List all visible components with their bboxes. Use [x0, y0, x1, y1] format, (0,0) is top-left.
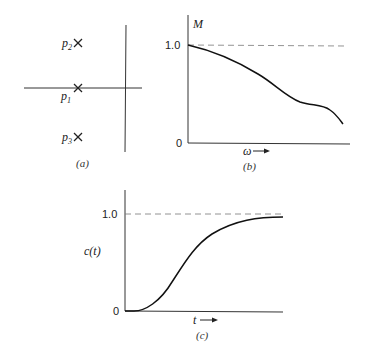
pole-p2: p2 — [61, 36, 82, 52]
caption-a: (a) — [76, 157, 89, 170]
x-axis — [125, 311, 283, 312]
reference-line-1 — [188, 45, 346, 46]
panel-b-frequency-response: M 1.0 0 ω (b) — [165, 15, 350, 173]
x-axis — [188, 143, 350, 144]
x-axis-label: ω — [243, 144, 251, 158]
pole-p3: p3 — [61, 130, 82, 146]
ytick-1: 1.0 — [165, 39, 180, 51]
y-axis-label: M — [192, 17, 204, 31]
x-axis-label: t — [193, 313, 197, 327]
ytick-0: 0 — [176, 137, 182, 149]
pole-p1: p1 — [60, 84, 82, 105]
step-response-curve — [125, 217, 283, 311]
panel-c-step-response: 1.0 0 c(t) t (c) — [84, 190, 283, 342]
ytick-1: 1.0 — [102, 208, 117, 220]
svg-text:p1: p1 — [60, 89, 71, 105]
caption-c: (c) — [196, 329, 209, 342]
arrow-right-icon — [200, 318, 218, 323]
y-axis-label: c(t) — [84, 244, 101, 258]
pole-cross-icon — [74, 133, 82, 141]
ytick-0: 0 — [113, 305, 119, 317]
panel-a-pole-plot: p2 p1 p3 (a) — [24, 25, 142, 170]
imaginary-axis — [125, 25, 126, 152]
svg-text:p2: p2 — [61, 36, 72, 52]
magnitude-curve — [188, 45, 343, 124]
pole-cross-icon — [74, 39, 82, 47]
svg-text:p3: p3 — [61, 130, 72, 146]
arrow-right-icon — [253, 149, 270, 154]
caption-b: (b) — [243, 160, 256, 173]
figure: p2 p1 p3 (a) — [0, 0, 368, 349]
